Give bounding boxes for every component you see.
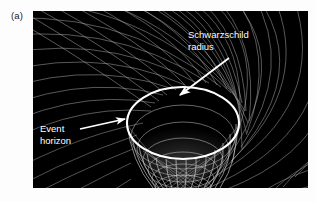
figure-container: (a) [0, 0, 316, 202]
panel-label: (a) [11, 11, 23, 21]
annotation-event-horizon-line2: horizon [40, 135, 71, 147]
annotation-schwarzschild-radius: Schwarzschild radius [188, 29, 249, 52]
annotation-event-horizon-line1: Event [40, 123, 71, 135]
annotation-event-horizon: Event horizon [40, 123, 71, 146]
annotation-schwarzschild-radius-line2: radius [188, 41, 249, 53]
spacetime-grid-svg [33, 11, 308, 188]
annotation-schwarzschild-radius-line1: Schwarzschild [188, 29, 249, 41]
spacetime-curvature-figure: Schwarzschild radius Event horizon [33, 11, 308, 188]
